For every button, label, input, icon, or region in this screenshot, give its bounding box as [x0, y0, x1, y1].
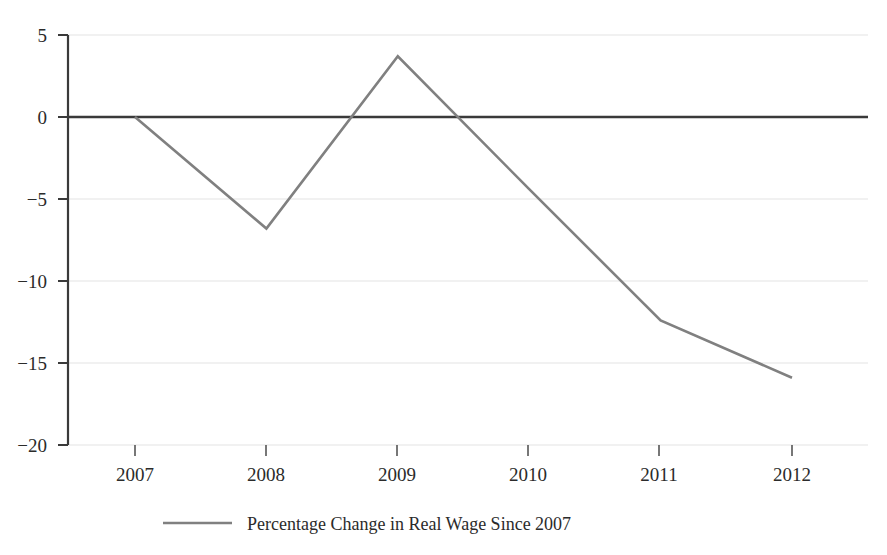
- y-tick-label-m20: −20: [17, 435, 47, 456]
- x-tick-label-2010: 2010: [509, 464, 547, 485]
- y-tick-label-m10: −10: [17, 271, 47, 292]
- x-tick-label-2012: 2012: [773, 464, 811, 485]
- legend-label-percentage-change-real-wage: Percentage Change in Real Wage Since 200…: [247, 514, 571, 534]
- line-chart-figure: 5 0 −5 −10 −15 −20 2007 2008 2009 2010 2…: [0, 0, 887, 555]
- x-tick-label-2008: 2008: [247, 464, 285, 485]
- x-tick-label-2009: 2009: [378, 464, 416, 485]
- x-tick-label-2011: 2011: [640, 464, 677, 485]
- y-tick-label-5: 5: [38, 25, 48, 46]
- y-tick-label-0: 0: [38, 107, 48, 128]
- y-tick-label-m15: −15: [17, 353, 47, 374]
- y-tick-label-m5: −5: [27, 189, 47, 210]
- x-tick-label-2007: 2007: [116, 464, 154, 485]
- chart-container: 5 0 −5 −10 −15 −20 2007 2008 2009 2010 2…: [0, 0, 887, 555]
